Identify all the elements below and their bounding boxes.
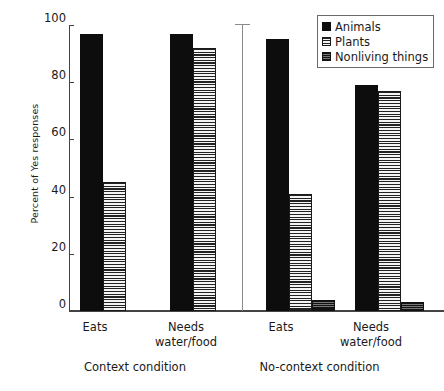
x-group-label-nocontext-needs: Needs water/food	[333, 320, 409, 349]
bar-nonliving-nocontext-eats	[312, 300, 335, 311]
x-group-label-context-eats: Eats	[60, 320, 130, 335]
legend: Animals Plants Nonliving things	[317, 15, 434, 68]
bar-animals-nocontext-eats	[266, 39, 289, 311]
y-axis-tick-labels: 100 80 60 40 20 0	[38, 18, 66, 314]
bar-animals-context-needs	[170, 34, 193, 311]
y-tick-label-60: 60	[38, 125, 66, 139]
legend-item-plants: Plants	[322, 34, 428, 49]
condition-label-context: Context condition	[80, 360, 190, 374]
bar-plants-context-needs	[193, 48, 216, 311]
bar-chart-figure: Percent of Yes responses 100 80 60 40 20…	[0, 0, 444, 391]
x-group-label-nocontext-eats: Eats	[246, 320, 316, 335]
y-tick-label-80: 80	[38, 68, 66, 82]
legend-swatch-animals-icon	[322, 22, 331, 31]
legend-item-nonliving: Nonliving things	[322, 49, 428, 64]
legend-label-animals: Animals	[335, 20, 381, 34]
legend-label-plants: Plants	[335, 35, 370, 49]
y-tick-label-0: 0	[38, 297, 66, 311]
bar-animals-context-eats	[80, 34, 103, 311]
condition-label-nocontext: No-context condition	[252, 360, 387, 374]
legend-label-nonliving: Nonliving things	[335, 50, 428, 64]
y-tick-label-100: 100	[38, 11, 66, 25]
x-group-label-context-needs: Needs water/food	[148, 320, 224, 349]
bar-plants-context-eats	[103, 182, 126, 311]
legend-item-animals: Animals	[322, 19, 428, 34]
bar-plants-nocontext-needs	[378, 91, 401, 311]
legend-swatch-nonliving-icon	[322, 52, 331, 61]
bar-plants-nocontext-eats	[289, 194, 312, 311]
y-tick-label-40: 40	[38, 183, 66, 197]
legend-swatch-plants-icon	[322, 37, 331, 46]
y-tick-label-20: 20	[38, 240, 66, 254]
bar-nonliving-nocontext-needs	[401, 302, 424, 311]
bar-animals-nocontext-needs	[355, 85, 378, 311]
